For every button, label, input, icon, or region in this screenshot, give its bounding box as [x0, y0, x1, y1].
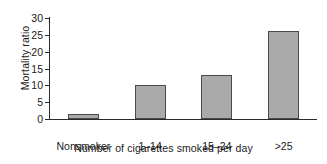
- y-tick-mark: [45, 102, 50, 103]
- x-axis-line: [49, 119, 317, 120]
- mortality-ratio-bar-chart: Mortality ratio 051015202530 Nonsmoker1–…: [0, 0, 327, 164]
- y-tick-label: 30: [31, 13, 43, 24]
- y-tick-label: 10: [31, 80, 43, 91]
- y-tick-mark: [45, 18, 50, 19]
- y-tick-mark: [45, 119, 50, 120]
- bar: [201, 75, 232, 119]
- y-tick-label: 5: [37, 97, 43, 108]
- y-tick-mark: [45, 85, 50, 86]
- y-tick-label: 25: [31, 30, 43, 41]
- plot-area: 051015202530 Nonsmoker1–1415–24>25: [50, 18, 317, 119]
- y-tick-label: 0: [37, 114, 43, 125]
- y-tick-mark: [45, 35, 50, 36]
- y-tick-label: 20: [31, 46, 43, 57]
- bar: [135, 85, 166, 119]
- bar: [268, 31, 299, 119]
- y-tick-mark: [45, 52, 50, 53]
- y-tick-label: 15: [31, 63, 43, 74]
- y-tick-mark: [45, 69, 50, 70]
- x-axis-title: Number of cigarettes smoked per day: [0, 142, 327, 154]
- y-axis-title: Mortality ratio: [18, 0, 32, 118]
- bar: [68, 114, 99, 119]
